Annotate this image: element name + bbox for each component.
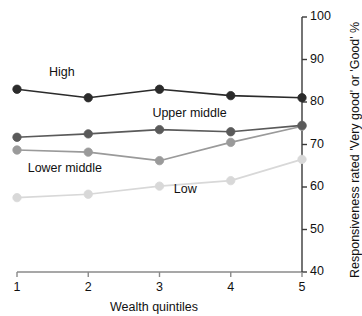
x-axis-tick-label: 5	[292, 280, 312, 294]
data-point	[84, 94, 92, 102]
data-point	[227, 128, 235, 136]
data-point	[298, 94, 306, 102]
data-point	[84, 148, 92, 156]
x-axis-tick-label: 1	[7, 280, 27, 294]
y-axis-title: Responsiveness rated 'Very good' or 'Goo…	[348, 22, 362, 278]
data-point	[227, 138, 235, 146]
series-upper-middle	[13, 121, 306, 141]
series-high	[13, 85, 306, 102]
x-axis-tick-label: 4	[221, 280, 241, 294]
y-axis-tick-label: 60	[310, 179, 324, 193]
data-point	[155, 125, 163, 133]
data-point	[227, 176, 235, 184]
data-point	[13, 85, 21, 93]
data-point	[13, 133, 21, 141]
y-axis-tick-label: 80	[310, 94, 324, 108]
series-label-high: High	[49, 65, 75, 79]
x-axis-title: Wealth quintiles	[0, 300, 308, 314]
data-point	[227, 91, 235, 99]
x-axis-tick-label: 2	[78, 280, 98, 294]
y-axis-tick-label: 70	[310, 137, 324, 151]
data-point	[84, 190, 92, 198]
y-axis-tick-label: 50	[310, 222, 324, 236]
data-point	[155, 85, 163, 93]
x-axis-tick-label: 3	[150, 280, 170, 294]
y-axis-tick-label: 90	[310, 52, 324, 66]
data-point	[13, 146, 21, 154]
data-point	[298, 155, 306, 163]
data-point	[298, 121, 306, 129]
chart-axes	[17, 17, 307, 277]
data-point	[155, 156, 163, 164]
data-point	[84, 130, 92, 138]
data-point	[155, 182, 163, 190]
chart-series-layer	[13, 85, 306, 202]
data-point	[13, 193, 21, 201]
series-label-low: Low	[174, 182, 197, 196]
y-axis-tick-label: 40	[310, 264, 324, 278]
y-axis-tick-label: 100	[310, 9, 331, 23]
series-label-lower-middle: Lower middle	[28, 161, 102, 175]
series-label-upper-middle: Upper middle	[152, 106, 226, 120]
